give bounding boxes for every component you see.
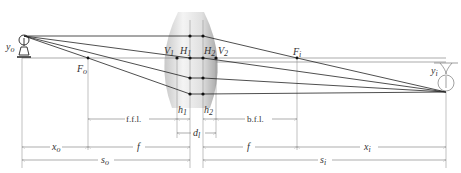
xo-label: xo (51, 141, 60, 154)
fo-label: Fo (76, 63, 87, 76)
ffl-label: f.f.l. (126, 114, 141, 124)
f-left-label: f (137, 141, 141, 152)
image-side-rays (203, 36, 446, 94)
object-lamp-icon (17, 35, 31, 57)
h2-dim-label: h2 (204, 104, 213, 117)
dl-label: dl (193, 127, 201, 140)
xi-label: xi (363, 141, 371, 154)
object-label: yo (5, 41, 14, 54)
bfl-label: b.f.l. (247, 114, 264, 124)
si-label: si (320, 154, 326, 167)
so-label: so (101, 154, 109, 167)
f-right-label: f (247, 141, 251, 152)
image-label: yi (430, 65, 438, 78)
v2-label: V2 (218, 45, 228, 58)
dimension-lines (22, 119, 446, 160)
thick-lens-diagram: yo Fo V1 H1 H2 V2 Fi yi f.f.l. b.f.l. h1… (0, 0, 461, 173)
